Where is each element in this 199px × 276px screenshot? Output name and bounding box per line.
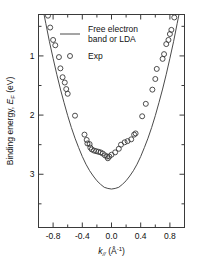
exp-data-point xyxy=(82,132,87,137)
legend-label-band-line2: band or LDA xyxy=(88,34,136,44)
x-axis-label: k// (Å-1) xyxy=(98,246,125,257)
exp-data-point xyxy=(45,13,50,18)
y-axis-label: Binding energy, EF (eV) xyxy=(5,77,16,166)
legend: Free electronband or LDAExp xyxy=(60,24,138,61)
exp-data-point xyxy=(153,76,158,81)
exp-data-point xyxy=(143,101,148,106)
legend-label-exp: Exp xyxy=(88,51,103,61)
exp-data-point xyxy=(51,37,56,42)
y-tick-label: 1 xyxy=(30,51,35,61)
exp-data-point xyxy=(62,80,67,85)
exp-data-point xyxy=(172,15,177,20)
x-tick-label: -0.4 xyxy=(75,231,90,241)
x-tick-label: 0.4 xyxy=(135,231,147,241)
exp-data-point xyxy=(58,66,63,71)
exp-data-point xyxy=(133,131,138,136)
exp-data-point xyxy=(150,87,155,92)
exp-data-point xyxy=(53,43,58,48)
legend-label-band-line1: Free electron xyxy=(88,24,138,34)
y-tick-label: 2 xyxy=(30,110,35,120)
exp-data-point xyxy=(60,75,65,80)
exp-data-point xyxy=(65,91,70,96)
x-tick-label: 0.0 xyxy=(106,231,118,241)
legend-circle-swatch xyxy=(68,54,73,59)
exp-data-point xyxy=(160,56,165,61)
exp-data-point xyxy=(166,37,171,42)
exp-data-point xyxy=(122,140,127,145)
exp-data-point xyxy=(173,10,178,15)
figure-container: -0.8-0.40.00.40.8123Free electronband or… xyxy=(0,0,199,276)
exp-data-point xyxy=(56,55,61,60)
exp-data-point xyxy=(162,52,167,57)
exp-data-point xyxy=(118,142,123,147)
y-tick-label: 3 xyxy=(30,169,35,179)
exp-data-point xyxy=(64,87,69,92)
x-tick-label: 0.8 xyxy=(164,231,176,241)
exp-data-point xyxy=(140,114,145,119)
exp-data-point xyxy=(48,25,53,30)
band-structure-plot: -0.8-0.40.00.40.8123Free electronband or… xyxy=(0,0,199,276)
plot-frame xyxy=(39,15,185,228)
x-tick-label: -0.8 xyxy=(46,231,61,241)
exp-data-point xyxy=(154,66,159,71)
exp-data-point xyxy=(73,113,78,118)
